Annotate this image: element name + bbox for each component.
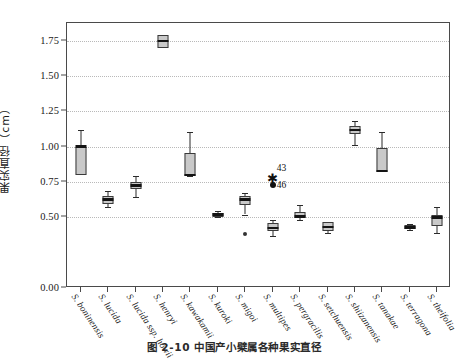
median-line xyxy=(322,226,333,229)
whisker-lower xyxy=(245,205,246,214)
x-tick-mark xyxy=(189,287,190,292)
x-tick-mark xyxy=(409,287,410,292)
x-tick-label: S. lucida xyxy=(97,292,124,326)
whisker-upper xyxy=(437,207,438,214)
x-tick-mark xyxy=(299,287,300,292)
whisker-upper xyxy=(382,132,383,148)
whisker-lower xyxy=(135,189,136,197)
figure-caption: 图 2-10 中国产小檗属各种果实直径 xyxy=(0,339,468,354)
boxplot-box xyxy=(396,23,423,286)
whisker-cap-lower xyxy=(407,230,413,231)
whisker-lower xyxy=(354,134,355,145)
whisker-cap-upper xyxy=(133,176,139,177)
whisker-cap-lower xyxy=(242,215,248,216)
box-iqr xyxy=(377,148,388,172)
outlier-dot-icon xyxy=(270,182,276,188)
boxplot-box xyxy=(67,23,94,286)
whisker-cap-lower xyxy=(105,207,111,208)
whisker-cap-lower xyxy=(325,233,331,234)
x-tick-mark xyxy=(217,287,218,292)
y-tick-label: 0.75 xyxy=(40,176,59,187)
median-line xyxy=(377,170,388,173)
median-line xyxy=(267,227,278,230)
median-line xyxy=(432,216,443,219)
y-tick-label: 1.00 xyxy=(40,140,59,151)
whisker-cap-upper xyxy=(434,207,440,208)
whisker-cap-lower xyxy=(352,145,358,146)
boxplot-box xyxy=(259,23,286,286)
x-tick-mark xyxy=(436,287,437,292)
boxplot-box xyxy=(232,23,259,286)
boxplot-box xyxy=(314,23,341,286)
whisker-cap-upper xyxy=(105,191,111,192)
outlier-label: 46 xyxy=(277,180,287,190)
x-tick-mark xyxy=(327,287,328,292)
whisker-cap-upper xyxy=(270,220,276,221)
plot-area: ✱4346 xyxy=(66,22,450,287)
median-line xyxy=(404,226,415,229)
y-tick-label: 1.75 xyxy=(40,34,59,45)
x-tick-mark xyxy=(272,287,273,292)
x-tick-mark xyxy=(107,287,108,292)
box-iqr xyxy=(185,153,196,175)
x-tick-label: S. tanakae xyxy=(371,292,402,331)
median-line xyxy=(349,129,360,132)
boxplot-box xyxy=(341,23,368,286)
median-line xyxy=(130,184,141,187)
y-tick-label: 0.50 xyxy=(40,211,59,222)
x-tick-mark xyxy=(162,287,163,292)
y-tick-label: 1.25 xyxy=(40,105,59,116)
boxplot-box xyxy=(424,23,451,286)
whisker-cap-lower xyxy=(270,236,276,237)
median-line xyxy=(103,198,114,201)
median-line xyxy=(212,213,223,216)
outlier-small-dot-icon xyxy=(243,232,247,236)
x-tick-mark xyxy=(80,287,81,292)
whisker-upper xyxy=(80,130,81,146)
whisker-cap-lower xyxy=(133,197,139,198)
whisker-cap-upper xyxy=(78,130,84,131)
x-tick-label: S. henryi xyxy=(152,292,180,326)
whisker-cap-lower xyxy=(215,217,221,218)
boxplot-box xyxy=(177,23,204,286)
whisker-cap-upper xyxy=(242,193,248,194)
whisker-cap-lower xyxy=(187,176,193,177)
median-line xyxy=(295,215,306,218)
boxplot-box xyxy=(204,23,231,286)
boxplot-box xyxy=(286,23,313,286)
x-tick-mark xyxy=(244,287,245,292)
boxplot-box xyxy=(369,23,396,286)
whisker-cap-upper xyxy=(352,121,358,122)
box-iqr xyxy=(75,147,86,175)
whisker-lower xyxy=(437,226,438,233)
whisker-cap-lower xyxy=(434,233,440,234)
x-tick-mark xyxy=(354,287,355,292)
y-tick-label: 0.00 xyxy=(40,282,59,293)
median-line xyxy=(157,40,168,43)
whisker-cap-lower xyxy=(297,220,303,221)
x-tick-label: S. migoi xyxy=(234,292,260,324)
boxplot-box xyxy=(149,23,176,286)
x-tick-label: S. kuroki xyxy=(207,292,234,326)
whisker-cap-upper xyxy=(379,132,385,133)
whisker-upper xyxy=(190,132,191,154)
x-tick-mark xyxy=(135,287,136,292)
whisker-cap-upper xyxy=(187,132,193,133)
x-tick-mark xyxy=(381,287,382,292)
boxplot-box xyxy=(94,23,121,286)
median-line xyxy=(75,145,86,148)
median-line xyxy=(240,198,251,201)
whisker-cap-upper xyxy=(297,205,303,206)
y-tick-label: 1.50 xyxy=(40,70,59,81)
boxplot-box xyxy=(122,23,149,286)
median-line xyxy=(185,174,196,177)
outlier-label: 43 xyxy=(277,163,287,173)
